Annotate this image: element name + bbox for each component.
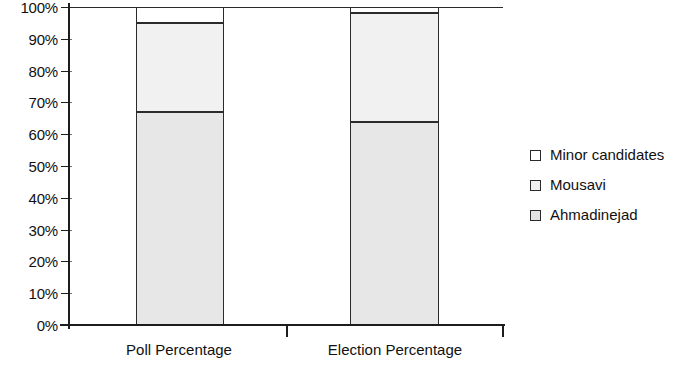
legend-swatch-minor-candidates-icon <box>530 150 541 161</box>
legend-item-mousavi: Mousavi <box>530 170 688 200</box>
y-tick-label-70: 70% <box>0 95 58 110</box>
bar-segment-minor-candidates-poll <box>136 7 224 23</box>
y-tick-label-10: 10% <box>0 286 58 301</box>
legend-label-minor-candidates: Minor candidates <box>550 147 664 163</box>
stacked-bar-chart: 100% 90% 80% 70% 60% 50% 40% 30% 20% 10%… <box>0 0 688 378</box>
bar-poll-percentage <box>136 7 224 325</box>
legend-label-mousavi: Mousavi <box>550 177 606 193</box>
x-axis-label-poll-percentage: Poll Percentage <box>72 341 286 358</box>
legend-item-ahmadinejad: Ahmadinejad <box>530 200 688 230</box>
y-axis-line <box>68 3 70 329</box>
y-tick-label-40: 40% <box>0 191 58 206</box>
y-tick-label-80: 80% <box>0 64 58 79</box>
chart-legend: Minor candidates Mousavi Ahmadinejad <box>530 140 688 230</box>
bar-segment-minor-candidates-election <box>350 7 439 13</box>
x-axis-label-election-percentage: Election Percentage <box>288 341 502 358</box>
bar-election-percentage <box>350 7 439 325</box>
legend-label-ahmadinejad: Ahmadinejad <box>550 207 638 223</box>
bar-segment-ahmadinejad-election <box>350 122 439 326</box>
legend-item-minor-candidates: Minor candidates <box>530 140 688 170</box>
y-axis-tick-labels: 100% 90% 80% 70% 60% 50% 40% 30% 20% 10%… <box>0 0 58 378</box>
y-tick-label-50: 50% <box>0 159 58 174</box>
y-tick-label-60: 60% <box>0 127 58 142</box>
x-axis-line <box>60 324 505 326</box>
y-tick-label-0: 0% <box>0 318 58 333</box>
bar-segment-mousavi-poll <box>136 23 224 112</box>
x-axis-category-tick-1 <box>286 326 288 337</box>
bar-segment-ahmadinejad-poll <box>136 112 224 325</box>
y-tick-label-30: 30% <box>0 223 58 238</box>
x-axis-category-tick-2 <box>502 326 504 337</box>
y-tick-label-100: 100% <box>0 0 58 15</box>
bar-segment-mousavi-election <box>350 13 439 121</box>
y-tick-label-90: 90% <box>0 32 58 47</box>
plot-area <box>70 7 503 325</box>
legend-swatch-ahmadinejad-icon <box>530 210 541 221</box>
legend-swatch-mousavi-icon <box>530 180 541 191</box>
y-tick-label-20: 20% <box>0 254 58 269</box>
